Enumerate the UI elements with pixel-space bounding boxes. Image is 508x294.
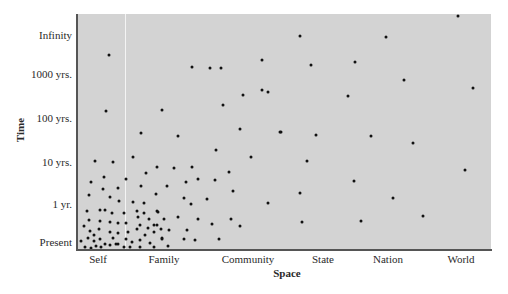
data-point — [95, 245, 98, 248]
data-point — [422, 215, 425, 218]
data-point — [131, 241, 134, 244]
data-point — [267, 91, 270, 94]
data-point — [160, 228, 163, 231]
data-point — [144, 234, 147, 237]
data-point — [220, 67, 223, 70]
x-tick-label: World — [447, 253, 474, 265]
data-point — [104, 209, 107, 212]
data-point — [109, 244, 112, 247]
data-point — [232, 190, 235, 193]
data-point — [464, 169, 467, 172]
data-point — [143, 212, 146, 215]
data-point — [161, 109, 164, 112]
y-tick-label: Infinity — [39, 29, 72, 41]
data-point — [99, 209, 102, 212]
data-point — [139, 224, 142, 227]
data-point — [125, 222, 128, 225]
data-point — [137, 216, 140, 219]
data-point — [132, 156, 135, 159]
data-point — [310, 64, 313, 67]
y-tick-label: 100 yrs. — [37, 112, 72, 124]
data-point — [239, 225, 242, 228]
data-point — [392, 197, 395, 200]
data-point — [156, 166, 159, 169]
data-point — [99, 220, 102, 223]
data-point — [186, 229, 189, 232]
data-point — [112, 237, 115, 240]
data-point — [315, 134, 318, 137]
data-point — [299, 192, 302, 195]
data-point — [370, 135, 373, 138]
data-point — [250, 156, 253, 159]
data-point — [117, 187, 120, 190]
data-point — [108, 54, 111, 57]
data-point — [194, 239, 197, 242]
data-point — [197, 218, 200, 221]
data-point — [242, 94, 245, 97]
data-point — [111, 212, 114, 215]
data-point — [239, 128, 242, 131]
data-point — [86, 210, 89, 213]
data-point — [299, 35, 302, 38]
data-point — [127, 231, 130, 234]
data-point — [197, 178, 200, 181]
data-point — [457, 15, 460, 18]
data-point — [230, 218, 233, 221]
data-point — [99, 238, 102, 241]
data-point — [80, 240, 83, 243]
data-point — [103, 176, 106, 179]
x-axis-title: Space — [273, 267, 301, 279]
data-point — [83, 225, 86, 228]
data-point — [117, 232, 120, 235]
y-tick-label: 1000 yrs. — [31, 68, 72, 80]
data-point — [157, 211, 160, 214]
data-point — [306, 160, 309, 163]
data-point — [139, 239, 142, 242]
x-tick-label: Nation — [373, 253, 403, 265]
data-point — [123, 212, 126, 215]
data-point — [136, 210, 139, 213]
data-point — [222, 104, 225, 107]
data-point — [143, 202, 146, 205]
data-point — [191, 66, 194, 69]
y-tick-label: Present — [40, 236, 72, 248]
self-family-divider — [125, 14, 126, 250]
data-point — [261, 59, 264, 62]
x-tick-label: Community — [222, 253, 275, 265]
data-point — [118, 200, 121, 203]
data-point — [140, 132, 143, 135]
data-point — [109, 231, 112, 234]
data-point — [87, 237, 90, 240]
data-point — [185, 181, 188, 184]
y-axis-title: Time — [14, 118, 26, 142]
data-point — [353, 180, 356, 183]
data-point — [385, 36, 388, 39]
data-point — [147, 227, 150, 230]
data-point — [261, 89, 264, 92]
data-point — [88, 219, 91, 222]
data-point — [228, 171, 231, 174]
data-point — [354, 61, 357, 64]
data-point — [211, 223, 214, 226]
data-point — [109, 221, 112, 224]
x-tick-label: Self — [89, 253, 107, 265]
data-point — [136, 228, 139, 231]
data-point — [140, 185, 143, 188]
data-point — [132, 201, 135, 204]
data-point — [218, 238, 221, 241]
data-point — [90, 181, 93, 184]
data-point — [145, 172, 148, 175]
data-point — [190, 203, 193, 206]
x-tick-label: Family — [148, 253, 179, 265]
data-point — [280, 131, 283, 134]
data-point — [206, 198, 209, 201]
data-point — [104, 243, 107, 246]
data-point — [93, 240, 96, 243]
data-point — [403, 79, 406, 82]
data-point — [183, 238, 186, 241]
data-point — [112, 161, 115, 164]
data-point — [360, 220, 363, 223]
y-tick-label: 1 yr. — [52, 198, 72, 210]
data-point — [153, 231, 156, 234]
data-point — [98, 228, 101, 231]
